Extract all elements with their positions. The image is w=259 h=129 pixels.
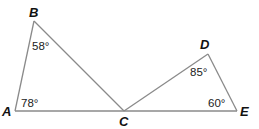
angle-label-b: 58° xyxy=(32,40,49,52)
vertex-label-e: E xyxy=(240,104,249,119)
edge-bc xyxy=(34,21,124,111)
angle-label-d: 85° xyxy=(190,66,207,78)
diagram-canvas: B A C D E 58° 78° 85° 60° xyxy=(0,0,259,129)
vertex-label-d: D xyxy=(200,37,210,52)
angle-label-a: 78° xyxy=(21,97,38,109)
vertex-label-b: B xyxy=(29,5,38,20)
vertex-label-a: A xyxy=(1,104,11,119)
vertex-label-c: C xyxy=(119,114,129,129)
triangles-diagram: B A C D E 58° 78° 85° 60° xyxy=(0,0,259,129)
edge-cd xyxy=(124,54,208,111)
angle-label-e: 60° xyxy=(208,97,225,109)
